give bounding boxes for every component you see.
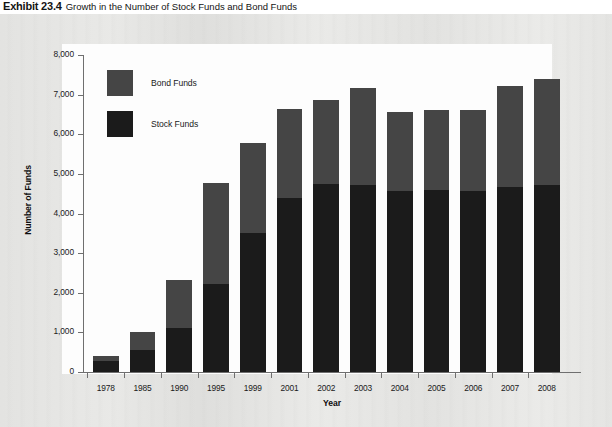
x-axis-tick (308, 373, 309, 378)
legend-swatch-icon (107, 111, 133, 137)
bar-segment-bond-funds (93, 356, 119, 361)
x-axis-tick (381, 373, 382, 378)
legend-label: Stock Funds (151, 119, 198, 129)
bar-segment-stock-funds (166, 328, 192, 372)
x-axis-title: Year (83, 398, 581, 408)
x-axis-tick-label: 2004 (381, 383, 418, 393)
y-axis-tick-label: 5,000 (28, 169, 74, 178)
bar-segment-stock-funds (313, 184, 339, 372)
bar-segment-stock-funds (240, 233, 266, 372)
x-axis-tick-label: 1990 (161, 383, 198, 393)
bar-2007 (497, 86, 523, 372)
x-axis-tick-label: 2002 (308, 383, 345, 393)
bar-segment-stock-funds (424, 190, 450, 372)
bar-segment-bond-funds (387, 112, 413, 191)
exhibit-page: Exhibit 23.4Growth in the Number of Stoc… (0, 0, 612, 427)
bar-segment-bond-funds (240, 143, 266, 234)
bar-segment-stock-funds (277, 198, 303, 372)
bar-segment-bond-funds (497, 86, 523, 187)
x-axis-tick-label: 2008 (528, 383, 565, 393)
bar-segment-bond-funds (424, 110, 450, 190)
y-axis-tick-label: 3,000 (28, 248, 74, 257)
bar-2001 (277, 109, 303, 372)
bar-segment-bond-funds (313, 100, 339, 184)
bar-segment-stock-funds (497, 187, 523, 372)
x-axis-tick-label: 2005 (418, 383, 455, 393)
x-axis-tick-label: 1999 (234, 383, 271, 393)
bar-1990 (166, 280, 192, 372)
bar-2003 (350, 88, 376, 372)
bar-segment-bond-funds (277, 109, 303, 197)
stacked-bar-chart: 01,0002,0003,0004,0005,0006,0007,0008,00… (0, 0, 612, 427)
bar-2005 (424, 110, 450, 372)
bar-segment-stock-funds (350, 185, 376, 372)
bar-segment-bond-funds (203, 183, 229, 284)
x-axis-tick (161, 373, 162, 378)
bar-segment-stock-funds (203, 284, 229, 372)
x-axis-tick (528, 373, 529, 378)
bar-2008 (534, 79, 560, 372)
x-axis-tick-label: 2007 (492, 383, 529, 393)
y-axis-tick-label: 0 (28, 367, 74, 376)
bar-2006 (460, 110, 486, 372)
y-axis-tick-label: 6,000 (28, 129, 74, 138)
bar-segment-stock-funds (534, 185, 560, 372)
bar-segment-bond-funds (130, 332, 156, 350)
x-axis-tick-label: 2003 (345, 383, 382, 393)
x-axis-tick (345, 373, 346, 378)
x-axis-tick (198, 373, 199, 378)
y-axis-tick-label: 7,000 (28, 90, 74, 99)
x-axis-tick-label: 2006 (455, 383, 492, 393)
x-axis-tick-label: 2001 (271, 383, 308, 393)
y-axis-tick-label: 8,000 (28, 50, 74, 59)
bar-1978 (93, 356, 119, 372)
y-axis-tick (78, 372, 83, 373)
x-axis-tick-label: 1985 (124, 383, 161, 393)
bar-segment-bond-funds (534, 79, 560, 185)
bar-2004 (387, 112, 413, 372)
bar-2002 (313, 100, 339, 372)
x-axis-tick (234, 373, 235, 378)
bar-segment-stock-funds (387, 191, 413, 372)
bar-segment-stock-funds (130, 350, 156, 372)
y-axis-tick-label: 4,000 (28, 209, 74, 218)
x-axis-tick (271, 373, 272, 378)
bar-segment-bond-funds (460, 110, 486, 192)
x-axis-tick (87, 373, 88, 378)
x-axis-line (83, 372, 581, 373)
x-axis-tick-label: 1978 (87, 383, 124, 393)
y-axis-tick-label: 2,000 (28, 288, 74, 297)
bar-1985 (130, 332, 156, 372)
x-axis-tick-label: 1995 (198, 383, 235, 393)
x-axis-tick (492, 373, 493, 378)
y-axis-tick-label: 1,000 (28, 327, 74, 336)
x-axis-tick (455, 373, 456, 378)
bar-1999 (240, 143, 266, 372)
bar-segment-stock-funds (93, 361, 119, 372)
legend-label: Bond Funds (151, 78, 197, 88)
bar-1995 (203, 183, 229, 372)
legend-swatch-icon (107, 70, 133, 96)
bar-segment-stock-funds (460, 191, 486, 372)
x-axis-tick (124, 373, 125, 378)
bar-segment-bond-funds (350, 88, 376, 185)
x-axis-tick (418, 373, 419, 378)
bar-segment-bond-funds (166, 280, 192, 328)
bars-container (83, 55, 581, 372)
y-axis-title: Number of Funds (23, 150, 33, 250)
